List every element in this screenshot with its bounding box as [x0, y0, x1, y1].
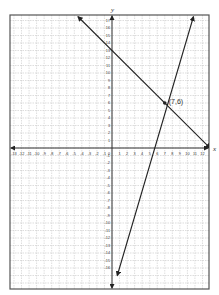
- x-tick-label: -9: [42, 152, 45, 156]
- y-tick-label: -9: [107, 214, 110, 218]
- x-tick-label: 4: [141, 152, 143, 156]
- x-axis-label: x: [212, 145, 217, 153]
- origin-label: 0: [108, 152, 110, 156]
- series-group: [78, 17, 210, 276]
- coordinate-plane: xy-13-12-11-10-9-8-7-6-5-4-3-2-112345678…: [0, 0, 219, 295]
- y-tick-label: 6: [108, 101, 110, 105]
- x-tick-label: 12: [200, 152, 204, 156]
- x-tick-label: 2: [126, 152, 128, 156]
- x-tick-label: 11: [193, 152, 197, 156]
- y-tick-label: 1: [108, 139, 110, 143]
- line-line1: [78, 17, 210, 148]
- x-tick-label: 1: [118, 152, 120, 156]
- x-tick-label: -11: [26, 152, 31, 156]
- y-axis-label: y: [110, 6, 115, 14]
- y-tick-label: -7: [107, 199, 110, 203]
- x-tick-label: -3: [88, 152, 91, 156]
- y-tick-label: -14: [105, 251, 111, 255]
- y-tick-label: -5: [107, 184, 110, 188]
- y-tick-label: -3: [107, 169, 110, 173]
- y-tick-label: 2: [108, 131, 110, 135]
- x-tick-label: -7: [58, 152, 61, 156]
- line-line2: [117, 17, 193, 276]
- x-tick-label: -12: [19, 152, 25, 156]
- y-tick-label: 15: [106, 34, 110, 38]
- x-tick-label: 9: [179, 152, 181, 156]
- y-tick-label: 11: [106, 64, 110, 68]
- y-tick-label: -13: [105, 244, 111, 248]
- x-tick-label: -4: [80, 152, 83, 156]
- x-tick-label: -5: [73, 152, 76, 156]
- intersection-label: (7,6): [169, 98, 183, 106]
- x-tick-label: 10: [185, 152, 189, 156]
- y-tick-label: 16: [106, 26, 110, 30]
- y-tick-label: 8: [108, 86, 110, 90]
- y-tick-label: 10: [106, 71, 110, 75]
- x-tick-label: 8: [171, 152, 173, 156]
- intersection-point: [163, 101, 167, 105]
- y-tick-label: -15: [105, 259, 111, 263]
- y-tick-label: -12: [105, 236, 111, 240]
- x-tick-label: -6: [65, 152, 68, 156]
- y-tick-label: -10: [105, 221, 111, 225]
- y-tick-label: -11: [105, 229, 110, 233]
- y-tick-label: -16: [105, 266, 111, 270]
- y-tick-label: -8: [107, 206, 110, 210]
- x-tick-label: -10: [34, 152, 40, 156]
- y-tick-label: -6: [107, 191, 110, 195]
- x-tick-label: -8: [50, 152, 53, 156]
- y-tick-label: -4: [107, 176, 110, 180]
- y-tick-label: 4: [108, 116, 110, 120]
- x-tick-label: 3: [134, 152, 136, 156]
- y-tick-label: 7: [108, 94, 110, 98]
- y-tick-label: -2: [107, 161, 110, 165]
- x-tick-label: -2: [95, 152, 98, 156]
- y-tick-label: 9: [108, 79, 110, 83]
- x-tick-label: 6: [156, 152, 158, 156]
- y-tick-label: 5: [108, 109, 110, 113]
- x-tick-label: 5: [149, 152, 151, 156]
- y-tick-label: 17: [106, 19, 110, 23]
- y-tick-label: 13: [106, 49, 110, 53]
- x-tick-label: 7: [164, 152, 166, 156]
- x-tick-label: -13: [11, 152, 17, 156]
- y-tick-label: 3: [108, 124, 110, 128]
- y-tick-label: 12: [106, 56, 110, 60]
